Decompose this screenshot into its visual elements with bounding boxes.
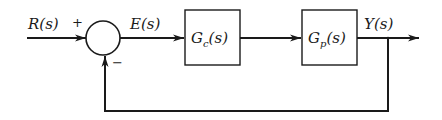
- plant-block: Gp(s): [302, 10, 357, 65]
- output-label: Y(s): [364, 15, 393, 33]
- error-label: E(s): [129, 15, 160, 33]
- input-label: R(s): [27, 15, 59, 33]
- plant-label: Gp(s): [308, 29, 346, 49]
- block-diagram: R(s) + − E(s) Gc(s) Gp(s) Y(s): [0, 0, 442, 120]
- summing-junction: [86, 21, 120, 55]
- takeoff-point: [387, 37, 389, 39]
- plus-sign: +: [72, 15, 83, 30]
- minus-sign: −: [112, 55, 123, 70]
- controller-block: Gc(s): [185, 10, 240, 65]
- controller-label: Gc(s): [191, 29, 228, 49]
